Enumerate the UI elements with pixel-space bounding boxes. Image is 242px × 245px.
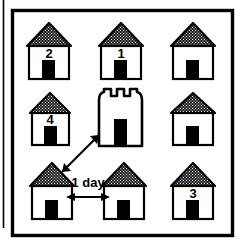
central-tower — [99, 89, 142, 146]
house-label: 4 — [46, 112, 54, 127]
door-icon — [45, 200, 58, 219]
door-icon — [117, 200, 130, 219]
door-icon — [186, 126, 199, 145]
house-label: 1 — [117, 46, 124, 61]
village-diagram: 2 1 4 — [0, 0, 242, 245]
door-icon — [44, 126, 57, 145]
figure-container: 2 1 4 — [0, 0, 242, 245]
door-icon — [114, 119, 127, 146]
door-icon — [186, 200, 199, 219]
distance-label: 1 day — [71, 175, 105, 190]
door-icon — [42, 60, 55, 79]
door-icon — [186, 60, 199, 79]
house-label: 3 — [189, 186, 196, 201]
house-label: 2 — [45, 46, 52, 61]
door-icon — [114, 60, 127, 79]
